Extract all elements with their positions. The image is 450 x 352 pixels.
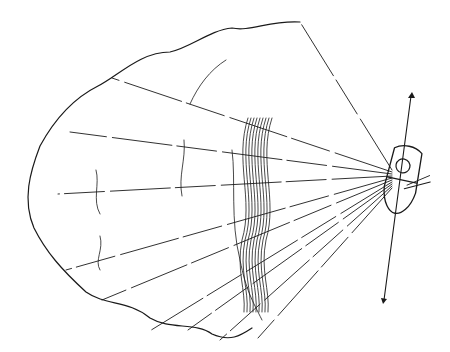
ray (58, 176, 392, 194)
boat (379, 143, 436, 219)
inner-weed-edge (96, 60, 262, 320)
reed-stalk (240, 118, 248, 312)
reed-stalks (240, 118, 272, 312)
reed-stalk (243, 118, 251, 312)
ray (300, 22, 392, 170)
rays (58, 22, 392, 340)
reed-stalk (249, 118, 257, 312)
arrow-top-icon (408, 92, 415, 98)
ray (70, 132, 392, 174)
diagram-canvas (0, 0, 450, 352)
reed-stalk (264, 118, 272, 312)
ray (188, 184, 392, 330)
reed-stalk (246, 118, 254, 312)
ray (66, 178, 392, 270)
ray (102, 180, 392, 300)
arrow-bottom-icon (381, 298, 387, 304)
guide-line (381, 92, 415, 304)
